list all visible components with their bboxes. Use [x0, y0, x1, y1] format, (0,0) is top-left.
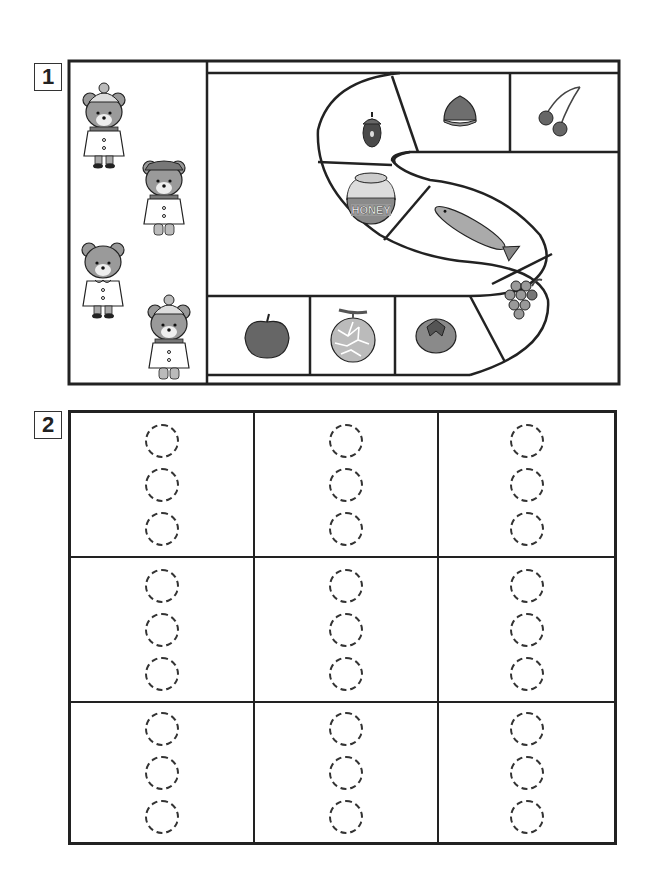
- apple-icon: [245, 314, 289, 358]
- honey-pot-icon: HONEY: [347, 173, 395, 224]
- circle-answer-slot[interactable]: [510, 424, 544, 458]
- cherry-icon: [539, 87, 580, 136]
- circle-answer-slot[interactable]: [329, 657, 363, 691]
- bear-icon-1: [83, 83, 125, 169]
- circle-answer-slot[interactable]: [510, 800, 544, 834]
- circle-answer-slot[interactable]: [145, 657, 179, 691]
- answer-cell-3-2: [255, 703, 439, 842]
- circle-answer-slot[interactable]: [510, 468, 544, 502]
- question-number-2: 2: [34, 411, 62, 439]
- circle-answer-slot[interactable]: [510, 756, 544, 790]
- circle-answer-slot[interactable]: [329, 512, 363, 546]
- question-2-answer-grid: [68, 410, 617, 845]
- circle-answer-slot[interactable]: [145, 424, 179, 458]
- circle-answer-slot[interactable]: [145, 712, 179, 746]
- circle-answer-slot[interactable]: [145, 756, 179, 790]
- acorn-icon: [363, 112, 381, 147]
- circle-answer-slot[interactable]: [145, 613, 179, 647]
- bear-icon-2: [143, 161, 185, 235]
- circle-answer-slot[interactable]: [329, 468, 363, 502]
- circle-answer-slot[interactable]: [145, 512, 179, 546]
- circle-answer-slot[interactable]: [145, 800, 179, 834]
- chestnut-icon: [444, 96, 476, 126]
- question-1-board: HONEY: [0, 0, 650, 400]
- circle-answer-slot[interactable]: [145, 569, 179, 603]
- circle-answer-slot[interactable]: [510, 569, 544, 603]
- answer-cell-2-2: [255, 558, 439, 703]
- melon-icon: [331, 310, 375, 362]
- circle-answer-slot[interactable]: [510, 712, 544, 746]
- circle-answer-slot[interactable]: [329, 756, 363, 790]
- answer-cell-3-1: [71, 703, 255, 842]
- answer-cell-3-3: [439, 703, 614, 842]
- circle-answer-slot[interactable]: [510, 512, 544, 546]
- persimmon-icon: [416, 319, 456, 353]
- circle-answer-slot[interactable]: [329, 613, 363, 647]
- bear-icon-4: [148, 295, 190, 379]
- answer-cell-2-3: [439, 558, 614, 703]
- circle-answer-slot[interactable]: [145, 468, 179, 502]
- honey-label: HONEY: [351, 204, 391, 216]
- answer-cell-1-2: [255, 413, 439, 558]
- answer-cell-2-1: [71, 558, 255, 703]
- circle-answer-slot[interactable]: [329, 712, 363, 746]
- bear-icon-3: [82, 243, 124, 319]
- circle-answer-slot[interactable]: [510, 657, 544, 691]
- answer-cell-1-3: [439, 413, 614, 558]
- circle-answer-slot[interactable]: [329, 424, 363, 458]
- circle-answer-slot[interactable]: [510, 613, 544, 647]
- circle-answer-slot[interactable]: [329, 569, 363, 603]
- grapes-icon: [505, 280, 542, 319]
- circle-answer-slot[interactable]: [329, 800, 363, 834]
- answer-cell-1-1: [71, 413, 255, 558]
- fish-icon: [431, 200, 520, 262]
